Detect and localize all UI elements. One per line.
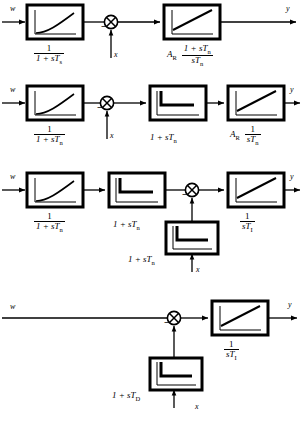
r4-x-label: x bbox=[195, 403, 199, 411]
diagram-canvas: − − − − w y x 1 1 + sTs AR 1 + sTn sTn w… bbox=[0, 0, 308, 422]
r4-sum-minus-sign: − bbox=[164, 318, 170, 328]
r2-input-label: w bbox=[10, 86, 15, 94]
r3-b3-label: 1 sTI bbox=[240, 212, 255, 233]
r1-output-label: y bbox=[286, 5, 290, 13]
r3-b2-label: 1 + sTn bbox=[113, 220, 140, 231]
r4-b2-label: 1 + sTD bbox=[112, 391, 140, 402]
r3-sum-minus-sign: − bbox=[182, 190, 188, 200]
r1-input-label: w bbox=[10, 5, 15, 13]
r1-b1-label: 1 1 + sTs bbox=[34, 44, 64, 65]
r1-b2-label: AR 1 + sTn sTn bbox=[167, 44, 213, 68]
r4-output-label: y bbox=[288, 301, 292, 309]
r2-sum-minus-sign: − bbox=[97, 103, 103, 113]
r3-input-label: w bbox=[10, 173, 15, 181]
r4-b1-label: 1 sTI bbox=[224, 340, 239, 361]
r1-sum-minus-sign: − bbox=[101, 22, 107, 32]
r2-b2-label: 1 + sTn bbox=[150, 133, 177, 144]
r2-output-label: y bbox=[290, 86, 294, 94]
r3-b4-label: 1 + sTn bbox=[128, 255, 155, 266]
r2-x-label: x bbox=[110, 132, 114, 140]
r3-x-label: x bbox=[196, 266, 200, 274]
r3-output-label: y bbox=[290, 173, 294, 181]
r3-b1-label: 1 1 + sTn bbox=[34, 212, 65, 233]
r4-input-label: w bbox=[10, 303, 15, 311]
r2-b3-label: AR 1 sTn bbox=[230, 125, 261, 146]
r2-b1-label: 1 1 + sTn bbox=[34, 125, 65, 146]
r1-x-label: x bbox=[114, 51, 118, 59]
